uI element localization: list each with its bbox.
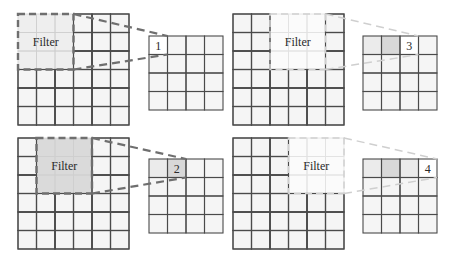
output-cell-prev	[400, 159, 419, 178]
panel-step-1: Filter1	[18, 14, 223, 125]
output-cell-prev	[382, 36, 401, 55]
filter-label: Filter	[51, 159, 77, 173]
connector-top	[344, 138, 437, 159]
output-step-label: 1	[155, 39, 161, 53]
output-step-label: 2	[174, 162, 180, 176]
diagram-canvas: Filter1Filter3Filter2Filter4	[0, 0, 452, 269]
filter-label: Filter	[303, 159, 329, 173]
filter-label: Filter	[285, 35, 311, 49]
convolution-diagram: Filter1Filter3Filter2Filter4	[0, 0, 452, 269]
panel-step-4: Filter4	[233, 138, 437, 249]
filter-label: Filter	[33, 35, 59, 49]
panel-step-3: Filter3	[233, 14, 437, 125]
output-cell-prev	[363, 36, 382, 55]
output-cell-prev	[382, 159, 401, 178]
output-step-label: 4	[425, 162, 431, 176]
output-cell-prev	[149, 159, 168, 178]
panel-step-2: Filter2	[18, 138, 223, 249]
output-step-label: 3	[406, 39, 412, 53]
output-cell-prev	[363, 159, 382, 178]
